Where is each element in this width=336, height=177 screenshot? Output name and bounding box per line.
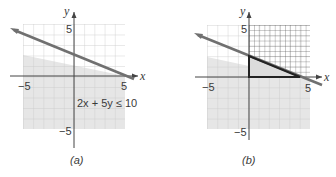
- panel-b: y x 5 −5 5 −5 (b): [194, 4, 330, 166]
- tick-y-5: 5: [241, 23, 247, 35]
- tick-x-5: 5: [305, 82, 311, 94]
- caption-b: (b): [242, 154, 256, 166]
- tick-y-neg5: −5: [59, 125, 72, 137]
- panel-a: y x 5 −5 5 −5 2x + 5y ≤ 10 (a): [10, 4, 146, 166]
- boundary-arrow-icon: [10, 28, 19, 34]
- y-axis-arrow-icon: [247, 12, 252, 18]
- tick-x-5: 5: [121, 80, 127, 92]
- tick-y-neg5: −5: [234, 126, 247, 138]
- boundary-arrow-icon: [194, 33, 203, 39]
- y-axis-arrow-icon: [72, 12, 77, 18]
- figure: y x 5 −5 5 −5 2x + 5y ≤ 10 (a) y x 5 −5 …: [0, 0, 336, 177]
- tick-x-neg5: −5: [18, 80, 31, 92]
- x-axis-arrow-icon: [316, 75, 322, 80]
- caption-a: (a): [70, 154, 84, 166]
- tick-y-5: 5: [66, 23, 72, 35]
- y-axis-label: y: [63, 4, 70, 18]
- x-axis-label: x: [139, 69, 146, 83]
- tick-x-neg5: −5: [202, 81, 215, 93]
- x-axis-label: x: [323, 70, 330, 84]
- y-axis-label: y: [239, 4, 246, 18]
- inequality-label: 2x + 5y ≤ 10: [77, 97, 137, 109]
